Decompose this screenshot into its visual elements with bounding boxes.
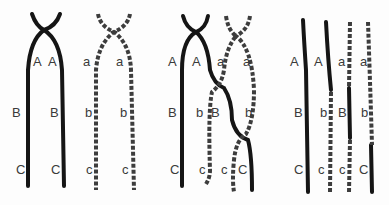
locus-label: c (318, 163, 325, 176)
locus-label: A (33, 55, 42, 68)
locus-label: b (196, 106, 203, 119)
crossover-diagram: AABBCCaabbccAAaaBbBbCccCAAaaBbBbCccC (0, 0, 389, 205)
locus-label: C (51, 163, 60, 176)
locus-label: c (122, 163, 129, 176)
locus-label: c (199, 163, 206, 176)
locus-label: b (320, 106, 327, 119)
locus-label: a (116, 55, 123, 68)
locus-label: A (192, 55, 201, 68)
locus-label: C (359, 163, 368, 176)
locus-label: C (294, 163, 303, 176)
chromatid-solid-3c-mid (349, 88, 350, 138)
locus-label: A (48, 55, 57, 68)
locus-label: a (338, 55, 345, 68)
locus-label: c (339, 163, 346, 176)
locus-label: A (168, 55, 177, 68)
locus-label: C (16, 163, 25, 176)
locus-label: B (168, 106, 177, 119)
locus-label: B (50, 106, 59, 119)
locus-label: A (290, 55, 299, 68)
locus-label: b (120, 106, 127, 119)
chromatid-solid-3d-bottom (371, 145, 372, 192)
locus-label: a (217, 55, 224, 68)
chromatid-solid-A (182, 16, 196, 186)
locus-label: B (211, 106, 220, 119)
locus-label: B (12, 106, 21, 119)
chromatid-solid-left (28, 14, 44, 186)
locus-label: c (221, 163, 228, 176)
chromatid-solid-3a (303, 20, 308, 192)
locus-label: C (238, 163, 247, 176)
locus-label: b (85, 106, 92, 119)
locus-label: B (338, 106, 347, 119)
locus-label: B (294, 106, 303, 119)
locus-label: a (83, 55, 90, 68)
locus-label: a (243, 55, 250, 68)
chromatid-solid-right (44, 14, 64, 186)
locus-label: b (361, 106, 368, 119)
locus-label: a (360, 55, 367, 68)
locus-label: A (314, 55, 323, 68)
locus-label: b (245, 106, 252, 119)
chromatid-solid-3b-top (326, 22, 331, 90)
locus-label: C (170, 163, 179, 176)
locus-label: c (86, 163, 93, 176)
